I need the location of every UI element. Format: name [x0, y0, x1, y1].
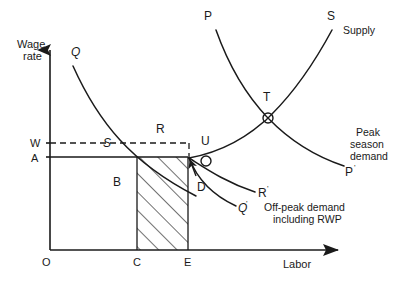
curve-p — [216, 30, 344, 166]
curve-s — [189, 30, 332, 158]
svg-text:Off-peak demand: Off-peak demand — [264, 201, 345, 213]
point-label-u: U — [201, 134, 210, 148]
annotation-offpeak-demand: Off-peak demand including RWP — [264, 201, 345, 225]
region-rectangle-r — [50, 143, 189, 158]
region-label-s-point: S — [103, 136, 111, 150]
curve-label-p: P — [204, 9, 212, 23]
origin-label: O — [42, 256, 51, 268]
curve-label-r-prime: R ' — [258, 184, 269, 200]
annotation-supply: Supply — [343, 24, 376, 36]
region-label-b: B — [113, 175, 121, 189]
point-marker-t — [263, 113, 273, 123]
svg-text:': ' — [267, 184, 269, 193]
svg-text:': ' — [246, 199, 248, 208]
svg-text:': ' — [354, 163, 356, 172]
svg-text:demand: demand — [350, 150, 388, 162]
region-label-d: D — [197, 180, 206, 194]
svg-text:including RWP: including RWP — [273, 213, 342, 225]
svg-text:P: P — [345, 165, 353, 179]
curve-label-q-prime: Q ' — [238, 199, 248, 215]
annotation-peak-season-demand: Peak season demand — [350, 126, 388, 162]
x-tick-e: E — [184, 256, 191, 268]
svg-text:Peak: Peak — [356, 126, 381, 138]
region-label-r: R — [156, 122, 165, 136]
y-axis-label-line1: Wage — [17, 38, 45, 50]
hatched-region — [137, 157, 188, 250]
curve-label-s: S — [327, 9, 335, 23]
y-tick-w: W — [30, 137, 41, 149]
y-axis-label-line2: rate — [23, 50, 42, 62]
svg-text:season: season — [350, 138, 384, 150]
svg-text:R: R — [258, 186, 267, 200]
point-marker-u — [201, 156, 211, 166]
point-label-t: T — [263, 90, 271, 104]
curve-label-q: Q — [71, 45, 80, 59]
x-tick-c: C — [133, 256, 141, 268]
y-tick-a: A — [31, 152, 39, 164]
economics-diagram: Wage rate Labor O W A C E Q Q ' P P ' S … — [0, 0, 399, 285]
x-axis-label: Labor — [283, 258, 311, 270]
curve-label-p-prime: P ' — [345, 163, 356, 179]
